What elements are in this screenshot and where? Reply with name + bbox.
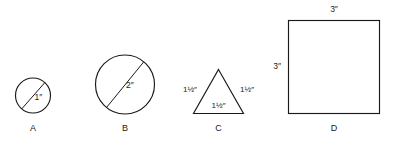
circle-b-dimension-label: 2″ <box>126 80 134 90</box>
triangle-c-bottom-side-label: 1½″ <box>212 101 226 110</box>
shape-b-group: 2″ B <box>96 55 155 133</box>
shape-d-letter-label: D <box>331 123 338 133</box>
shape-a-group: 1″ A <box>16 78 51 133</box>
square-d-outline <box>289 21 380 114</box>
shape-b-letter-label: B <box>122 123 128 133</box>
triangle-c-left-side-label: 1½″ <box>183 85 197 94</box>
circle-a-dimension-label: 1″ <box>35 92 43 102</box>
geometry-figure-canvas: 1″ A 2″ B 1½″ 1½″ 1½″ C 3″ 3″ D <box>0 0 397 141</box>
shape-a-letter-label: A <box>30 123 36 133</box>
shapes-illustration: 1″ A 2″ B 1½″ 1½″ 1½″ C 3″ 3″ D <box>0 0 397 141</box>
triangle-c-right-side-label: 1½″ <box>240 85 254 94</box>
square-d-top-side-label: 3″ <box>330 4 338 14</box>
shape-c-letter-label: C <box>215 123 222 133</box>
square-d-left-side-label: 3″ <box>273 61 281 71</box>
shape-c-group: 1½″ 1½″ 1½″ C <box>183 70 254 134</box>
shape-d-group: 3″ 3″ D <box>273 4 379 133</box>
